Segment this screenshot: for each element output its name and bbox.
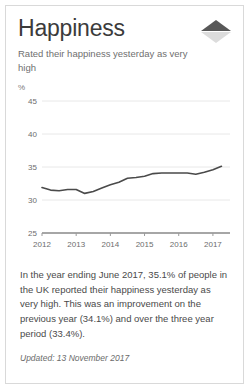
y-axis-unit-label: % [18,83,243,92]
x-axis-tick-label: 2017 [204,240,222,249]
y-axis-tick-label: 25 [28,229,37,238]
card-body-text: In the year ending June 2017, 35.1% of p… [20,268,229,342]
triangle-down-icon [201,32,231,43]
y-axis-tick-label: 30 [28,196,37,205]
x-axis-tick-label: 2015 [136,240,154,249]
y-axis-tick-label: 40 [28,130,37,139]
x-axis-tick-label: 2014 [101,240,119,249]
card-header: Happiness Rated their happiness yesterda… [6,6,243,75]
happiness-stat-card: Happiness Rated their happiness yesterda… [5,5,244,384]
card-subtitle: Rated their happiness yesterday as very … [18,47,193,75]
page-title: Happiness [18,16,231,41]
line-chart: 2530354045 201220132014201520162017 [16,93,233,256]
series-line-happiness [42,166,221,193]
y-axis-tick-label: 45 [28,97,37,106]
y-axis-tick-label: 35 [28,163,37,172]
x-axis-tick-label: 2012 [33,240,51,249]
triangle-up-icon [201,20,231,31]
chart-svg: 2530354045 201220132014201520162017 [16,93,235,256]
trend-indicator [201,17,231,47]
updated-timestamp: Updated: 13 November 2017 [20,353,229,363]
chart-gridlines [42,101,230,233]
x-axis-tick-labels: 201220132014201520162017 [33,240,222,249]
y-axis-tick-labels: 2530354045 [28,97,37,238]
x-axis-tick-label: 2016 [170,240,188,249]
x-axis-tick-label: 2013 [67,240,85,249]
